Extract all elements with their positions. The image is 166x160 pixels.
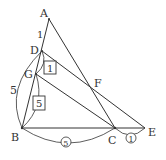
point-G [35,73,37,75]
label-BD: 5 [10,84,17,97]
point-D [41,50,43,52]
line-GC [36,74,115,128]
label-A: A [39,7,49,20]
line-AC [49,19,115,128]
label-C: C [108,134,116,147]
label-BC: 5 [63,139,68,148]
point-C [114,127,116,129]
point-B [21,127,23,129]
label-G: G [24,68,33,81]
label-D: D [30,44,39,57]
label-CE: 1 [129,135,134,144]
label-E: E [148,126,156,139]
point-A [48,18,50,20]
label-AD: 1 [37,29,43,40]
geometry-diagram: A D G B C E F 1 5 1 5 5 1 [0,0,166,160]
label-B: B [11,131,19,144]
label-GB: 5 [36,98,42,109]
label-F: F [94,77,102,90]
label-DG: 1 [47,63,53,74]
